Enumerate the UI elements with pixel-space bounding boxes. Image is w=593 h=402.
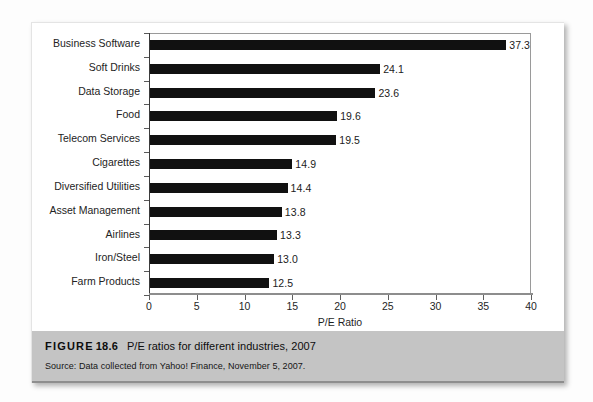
x-axis-tick-label: 15: [286, 300, 298, 312]
bar-row: [150, 153, 530, 175]
bar-value-label: 19.5: [339, 134, 360, 146]
bar: [150, 111, 337, 121]
bar-value-label: 13.0: [277, 253, 298, 265]
bar-value-label: 23.6: [378, 87, 399, 99]
bar-rows: [150, 34, 530, 294]
bar-value-label: 14.9: [295, 158, 316, 170]
figure-label-word: FIGURE: [45, 340, 94, 352]
bar-value-label: 12.5: [272, 277, 293, 289]
bar-row: [150, 248, 530, 270]
figure-container: Business SoftwareSoft DrinksData Storage…: [0, 0, 593, 402]
x-axis-tick-label: 40: [525, 300, 537, 312]
x-axis-tick-label: 0: [146, 300, 152, 312]
figure-card: Business SoftwareSoft DrinksData Storage…: [31, 22, 564, 383]
figure-caption-band: FIGURE18.6P/E ratios for different indus…: [32, 331, 564, 383]
bar-row: [150, 201, 530, 223]
bar: [150, 88, 375, 98]
category-label: Food: [116, 104, 140, 126]
figure-number: 18.6: [96, 340, 118, 352]
figure-caption: FIGURE18.6P/E ratios for different indus…: [45, 340, 316, 352]
bar-value-label: 19.6: [340, 110, 361, 122]
bar: [150, 278, 269, 288]
category-label: Business Software: [53, 33, 140, 55]
x-axis-tick-label: 5: [194, 300, 200, 312]
category-label: Asset Management: [50, 200, 140, 222]
bar: [150, 40, 506, 50]
category-label: Soft Drinks: [89, 57, 140, 79]
bar-value-label: 24.1: [383, 63, 404, 75]
bar: [150, 159, 292, 169]
bar-value-label: 37.3: [509, 39, 530, 51]
category-label: Data Storage: [78, 81, 140, 103]
y-axis-category-labels: Business SoftwareSoft DrinksData Storage…: [32, 33, 146, 295]
category-label: Telecom Services: [58, 128, 140, 150]
bar: [150, 64, 380, 74]
x-axis-title: P/E Ratio: [149, 316, 531, 328]
bar-row: [150, 82, 530, 104]
bar-value-label: 14.4: [291, 182, 312, 194]
x-axis-tick-label: 20: [334, 300, 346, 312]
bar: [150, 207, 282, 217]
category-label: Cigarettes: [92, 152, 140, 174]
bar: [150, 254, 274, 264]
category-label: Iron/Steel: [95, 247, 140, 269]
figure-title: P/E ratios for different industries, 200…: [127, 340, 316, 352]
category-label: Airlines: [106, 224, 140, 246]
x-axis-tick-label: 25: [382, 300, 394, 312]
bar-row: [150, 177, 530, 199]
x-axis-tick-label: 10: [239, 300, 251, 312]
bar-row: [150, 58, 530, 80]
bar: [150, 135, 336, 145]
bar: [150, 183, 288, 193]
bar-value-label: 13.3: [280, 229, 301, 241]
plot-frame: [149, 33, 531, 295]
x-axis-tick-label: 30: [430, 300, 442, 312]
category-label: Farm Products: [71, 271, 140, 293]
bar-value-label: 13.8: [285, 206, 306, 218]
bar-row: [150, 34, 530, 56]
bar-row: [150, 272, 530, 294]
x-axis-tick-label: 35: [477, 300, 489, 312]
bar-row: [150, 225, 530, 247]
chart-area: Business SoftwareSoft DrinksData Storage…: [32, 23, 564, 329]
figure-source: Source: Data collected from Yahoo! Finan…: [45, 361, 305, 371]
category-label: Diversified Utilities: [54, 176, 140, 198]
bar: [150, 230, 277, 240]
